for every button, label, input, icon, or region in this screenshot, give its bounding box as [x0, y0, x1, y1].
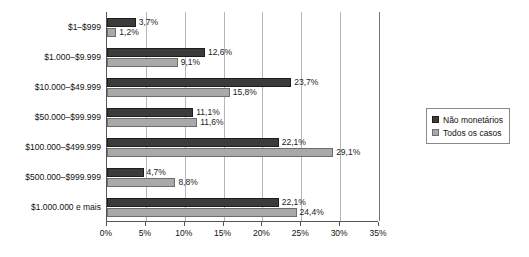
- bar-value-label: 24,4%: [300, 208, 324, 217]
- x-tick-mark: [378, 222, 379, 226]
- bar-nao-monetarios: [107, 78, 291, 87]
- x-tick-mark: [300, 222, 301, 226]
- legend-swatch-icon: [432, 116, 439, 123]
- x-tick-label: 35%: [358, 228, 398, 238]
- chart-legend: Não monetáriosTodos os casos: [426, 108, 510, 144]
- bar-nao-monetarios: [107, 18, 136, 27]
- bar-nao-monetarios: [107, 138, 279, 147]
- category-label: $1.000–$9.999: [0, 52, 101, 62]
- category-label: $10.000–$49.999: [0, 82, 101, 92]
- bar-todos-os-casos: [107, 28, 116, 37]
- category-label: $1–$999: [0, 22, 101, 32]
- gridline: [146, 12, 147, 221]
- bar-todos-os-casos: [107, 88, 230, 97]
- x-tick-mark: [145, 222, 146, 226]
- bar-chart: 3,7%1,2%12,6%9,1%23,7%15,8%11,1%11,6%22,…: [0, 0, 529, 257]
- bar-value-label: 3,7%: [139, 18, 158, 27]
- bar-value-label: 11,1%: [196, 108, 219, 117]
- x-tick-label: 25%: [280, 228, 320, 238]
- bar-value-label: 22,1%: [282, 138, 306, 147]
- x-tick-mark: [184, 222, 185, 226]
- plot-area: 3,7%1,2%12,6%9,1%23,7%15,8%11,1%11,6%22,…: [106, 12, 378, 222]
- category-label: $1.000.000 e mais: [0, 202, 101, 212]
- bar-nao-monetarios: [107, 168, 144, 177]
- legend-item: Não monetários: [432, 113, 503, 126]
- legend-label: Não monetários: [443, 115, 503, 125]
- gridline: [379, 12, 380, 221]
- bar-value-label: 15,8%: [233, 88, 257, 97]
- x-tick-mark: [106, 222, 107, 226]
- category-label: $100.000–$499.999: [0, 142, 101, 152]
- gridline: [301, 12, 302, 221]
- bar-todos-os-casos: [107, 58, 178, 67]
- bar-value-label: 11,6%: [200, 118, 223, 127]
- bar-value-label: 23,7%: [294, 78, 318, 87]
- x-tick-mark: [261, 222, 262, 226]
- legend-label: Todos os casos: [443, 128, 502, 138]
- legend-swatch-icon: [432, 129, 439, 136]
- bar-value-label: 4,7%: [147, 168, 166, 177]
- x-tick-label: 0%: [86, 228, 126, 238]
- bar-value-label: 22,1%: [282, 198, 306, 207]
- gridline: [185, 12, 186, 221]
- x-tick-mark: [339, 222, 340, 226]
- x-tick-label: 15%: [203, 228, 243, 238]
- bar-nao-monetarios: [107, 48, 205, 57]
- category-label: $500.000–$999.999: [0, 172, 101, 182]
- bar-nao-monetarios: [107, 198, 279, 207]
- x-tick-label: 10%: [164, 228, 204, 238]
- x-tick-label: 30%: [319, 228, 359, 238]
- legend-item: Todos os casos: [432, 126, 503, 139]
- bar-todos-os-casos: [107, 118, 197, 127]
- bar-value-label: 9,1%: [181, 58, 200, 67]
- bar-todos-os-casos: [107, 148, 333, 157]
- x-tick-label: 5%: [125, 228, 165, 238]
- category-label: $50.000–$99.999: [0, 112, 101, 122]
- bar-value-label: 29,1%: [336, 148, 360, 157]
- bar-value-label: 1,2%: [119, 28, 138, 37]
- gridline: [262, 12, 263, 221]
- bar-todos-os-casos: [107, 178, 175, 187]
- bar-nao-monetarios: [107, 108, 193, 117]
- bar-value-label: 12,6%: [208, 48, 232, 57]
- x-tick-label: 20%: [241, 228, 281, 238]
- bar-todos-os-casos: [107, 208, 297, 217]
- gridline: [340, 12, 341, 221]
- x-tick-mark: [223, 222, 224, 226]
- bar-value-label: 8,8%: [178, 178, 197, 187]
